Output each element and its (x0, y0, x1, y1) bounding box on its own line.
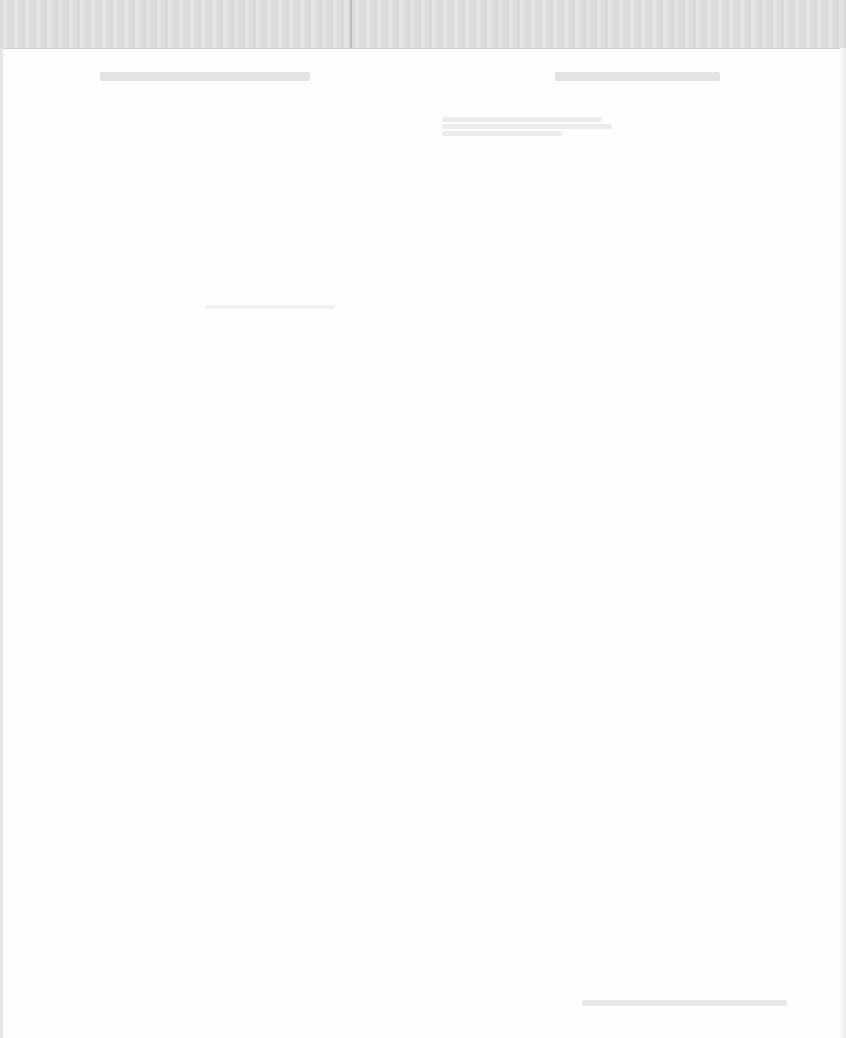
paragraph-line (442, 117, 602, 122)
page-fold-line (350, 0, 352, 48)
footer-text (582, 1000, 787, 1006)
left-page-edge (0, 48, 3, 1038)
right-page-edge (840, 48, 846, 1038)
paragraph-line (442, 124, 612, 129)
paragraph-line (442, 131, 562, 136)
header-right-text (555, 72, 720, 81)
scanner-edge-strip (0, 0, 846, 49)
header-left-text (100, 72, 310, 81)
mid-text (205, 305, 335, 309)
